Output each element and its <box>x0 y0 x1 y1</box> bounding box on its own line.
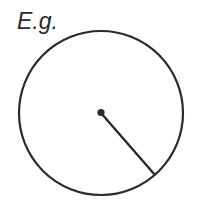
radius-line <box>101 113 155 175</box>
circle-diagram <box>0 0 200 201</box>
center-point <box>97 109 104 116</box>
